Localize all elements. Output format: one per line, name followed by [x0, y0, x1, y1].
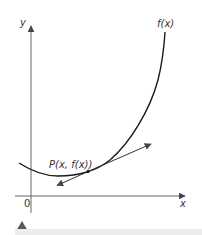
- x-axis-label: x: [180, 199, 186, 209]
- y-axis-label: y: [20, 18, 26, 28]
- origin-label: 0: [24, 199, 30, 209]
- bottom-band: [15, 229, 202, 235]
- point-label: P(x, f(x)): [49, 160, 92, 170]
- tangent-line: [88, 144, 151, 172]
- tangent-line-lower: [57, 172, 88, 186]
- point-p: [86, 170, 89, 173]
- curve-fx: [19, 32, 165, 176]
- curve-label: f(x): [157, 19, 174, 29]
